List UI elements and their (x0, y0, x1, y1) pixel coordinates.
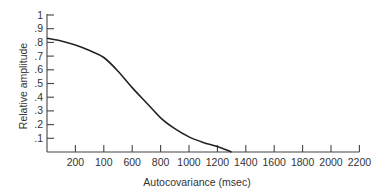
x-tick-label: 1200 (206, 156, 230, 168)
x-tick-label: 800 (152, 156, 170, 168)
x-tick-label: 200 (67, 156, 85, 168)
y-tick-label: .5 (34, 77, 43, 89)
y-tick-label: .6 (34, 63, 43, 75)
x-tick-label: 2000 (319, 156, 343, 168)
x-axis-label: Autocovariance (msec) (143, 176, 250, 188)
y-tick-label: .4 (34, 91, 43, 103)
x-tick-label: 1400 (234, 156, 258, 168)
x-tick-label: 600 (123, 156, 141, 168)
y-tick-label: .3 (34, 104, 43, 116)
line-chart: .1.2.3.4.5.6.7.8.91 20010060080010001200… (0, 0, 385, 195)
x-tick-label: 100 (95, 156, 113, 168)
y-tick-label: .1 (34, 132, 43, 144)
y-tick-label: 1 (37, 9, 43, 21)
x-tick-label: 1600 (263, 156, 287, 168)
x-tick-label: 2200 (348, 156, 372, 168)
data-curve (47, 38, 232, 152)
y-tick-label: .8 (34, 36, 43, 48)
y-axis: .1.2.3.4.5.6.7.8.91 (34, 9, 54, 153)
x-tick-label: 1000 (177, 156, 201, 168)
y-tick-label: .2 (34, 118, 43, 130)
y-tick-label: .7 (34, 50, 43, 62)
y-axis-label: Relative amplitude (17, 43, 29, 130)
x-tick-label: 1800 (291, 156, 315, 168)
y-tick-label: .9 (34, 22, 43, 34)
x-axis: 2001006008001000120014001600180020002200 (47, 145, 371, 168)
